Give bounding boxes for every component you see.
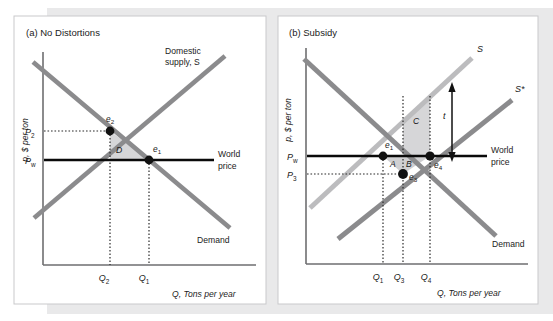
panel-b-y-axis-label-group: p, $ per ton: [283, 98, 293, 143]
subsidy-figure-svg: (a) No Distortions p, $ per ton e2 e1 D: [0, 0, 553, 321]
panel-a-point-e2: [106, 127, 115, 136]
panel-a-x-axis-label: Q, Tons per year: [172, 289, 237, 299]
panel-a-point-e1: [145, 156, 154, 165]
panel-b-region-B-label: B: [406, 159, 412, 169]
panel-b-point-e3: [398, 169, 408, 179]
panel-b-world-price-label-line2: price: [491, 157, 510, 167]
panel-a-region-D-label: D: [116, 145, 122, 155]
panel-b-supply-s-star-label: S*: [515, 84, 525, 94]
panel-b-region-C-label: C: [413, 116, 420, 126]
panel-b: (b) Subsidy p, $ per ton: [278, 16, 538, 304]
panel-b-world-price-label-line1: World: [491, 145, 514, 155]
panel-a-title: (a) No Distortions: [26, 27, 100, 38]
panel-a-supply-label-line2: supply, S: [165, 57, 200, 67]
panel-b-point-e1: [379, 152, 388, 161]
panel-b-y-axis-label: p, $ per ton: [283, 98, 293, 143]
figure-root: (a) No Distortions p, $ per ton e2 e1 D: [0, 0, 553, 321]
panel-a-supply-label-line1: Domestic: [165, 46, 202, 56]
panel-a: (a) No Distortions p, $ per ton e2 e1 D: [14, 16, 266, 304]
panel-b-x-axis-label: Q, Tons per year: [437, 288, 502, 298]
panel-a-world-price-label-line2: price: [218, 161, 237, 171]
panel-a-world-price-label-line1: World: [218, 149, 241, 159]
panel-a-demand-label: Demand: [197, 235, 230, 245]
panel-b-supply-s-label: S: [477, 44, 483, 54]
panel-b-demand-label: Demand: [492, 239, 525, 249]
panel-b-region-A-label: A: [389, 159, 396, 169]
panel-b-title: (b) Subsidy: [289, 27, 337, 38]
